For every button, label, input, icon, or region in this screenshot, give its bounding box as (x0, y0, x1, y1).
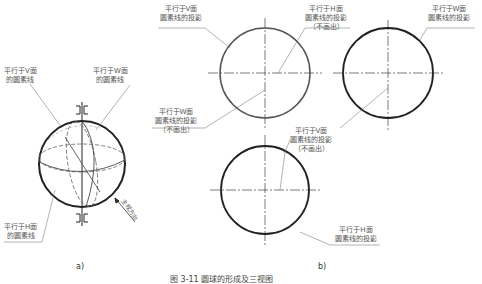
label-line: 圆素线的投影 (155, 117, 197, 126)
sub-label-a: a) (76, 262, 84, 271)
figure-caption: 图 3-11 圆球的形成及三视图 (170, 273, 273, 284)
label-b-h-plane-hidden-front: 平行于H面 圆素线的投影 （不画出） (305, 5, 347, 32)
label-a-v-plane: 平行于V面 的圆素线 (4, 67, 37, 85)
label-line: 平行于H面 (305, 5, 347, 14)
label-line: 圆素线的投影 (305, 14, 347, 23)
label-line: 平行于W面 (428, 5, 470, 14)
sphere-drawing (4, 84, 135, 242)
label-line: 圆素线的投影 (335, 235, 377, 244)
label-line: 圆素线的投影 (290, 136, 332, 145)
label-line: 平行于V面 (4, 67, 37, 76)
label-line: 的圆素线 (93, 76, 128, 85)
label-line: 平行于H面 (335, 226, 377, 235)
label-b-h-plane-projection: 平行于H面 圆素线的投影 (335, 226, 377, 244)
side-view (333, 20, 443, 130)
label-line: （不画出） (305, 23, 347, 32)
label-line: （不画出） (290, 145, 332, 154)
label-b-v-plane-projection: 平行于V面 圆素线的投影 (160, 5, 202, 23)
front-view (208, 18, 322, 128)
label-line: 圆素线的投影 (428, 14, 470, 23)
label-line: 的圆素线 (4, 232, 37, 241)
label-b-w-plane-projection: 平行于W面 圆素线的投影 (428, 5, 470, 23)
label-line: 平行于V面 (160, 5, 202, 14)
label-line: （不画出） (155, 126, 197, 135)
label-line: 平行于W面 (93, 67, 128, 76)
label-line: 平行于H面 (4, 223, 37, 232)
label-a-h-plane: 平行于H面 的圆素线 (4, 223, 37, 241)
label-b-v-plane-hidden: 平行于V面 圆素线的投影 （不画出） (290, 127, 332, 154)
sub-label-b: b) (318, 262, 326, 271)
label-b-w-plane-hidden: 平行于W面 圆素线的投影 （不画出） (155, 108, 197, 135)
label-line: 平行于V面 (290, 127, 332, 136)
label-line: 的圆素线 (4, 76, 37, 85)
label-line: 平行于W面 (155, 108, 197, 117)
label-a-w-plane: 平行于W面 的圆素线 (93, 67, 128, 85)
label-line: 圆素线的投影 (160, 14, 202, 23)
